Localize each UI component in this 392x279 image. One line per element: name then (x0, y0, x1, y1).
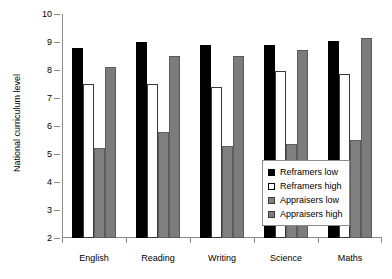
x-axis-tick (254, 238, 255, 243)
legend-swatch-icon (268, 211, 275, 218)
bar-group: Reading (126, 14, 190, 238)
x-axis-tick (190, 238, 191, 243)
y-axis-tick (54, 210, 60, 211)
x-axis-tick (381, 238, 382, 243)
y-axis-tick-label: 6 (28, 122, 52, 131)
x-axis-label-maths: Maths (338, 253, 363, 263)
y-axis-title: National curriculum level (12, 23, 22, 223)
legend-label: Reframers high (280, 182, 342, 191)
bar-appraisers-high-english (105, 67, 116, 238)
legend-label: Reframers low (280, 168, 338, 177)
y-axis-tick-label: 8 (28, 66, 52, 75)
y-axis-tick (54, 70, 60, 71)
bar-reframers-high-reading (147, 84, 158, 238)
y-axis-tick (54, 238, 60, 239)
y-axis-tick-label: 10 (28, 10, 52, 19)
legend-item-reframers-high[interactable]: Reframers high (268, 179, 343, 193)
legend-swatch-icon (268, 197, 275, 204)
bar-reframers-high-english (83, 84, 94, 238)
legend-item-appraisers-high[interactable]: Appraisers high (268, 207, 343, 221)
legend-label: Appraisers high (280, 210, 343, 219)
bar-appraisers-low-reading (158, 132, 169, 238)
x-axis-label-writing: Writing (208, 253, 236, 263)
bar-appraisers-low-maths (350, 140, 361, 238)
y-axis-tick (54, 14, 60, 15)
bar-appraisers-high-maths (361, 38, 372, 238)
bar-reframers-low-reading (136, 42, 147, 238)
bar-reframers-high-writing (211, 87, 222, 238)
bar-appraisers-high-writing (233, 56, 244, 238)
bar-group: English (62, 14, 126, 238)
bar-group: Writing (190, 14, 254, 238)
y-axis-tick (54, 126, 60, 127)
y-axis-tick (54, 42, 60, 43)
bar-appraisers-low-english (94, 148, 105, 238)
legend-label: Appraisers low (280, 196, 339, 205)
x-axis-label-reading: Reading (141, 253, 175, 263)
y-axis-tick-label: 4 (28, 178, 52, 187)
legend-swatch-icon (268, 183, 275, 190)
legend-item-reframers-low[interactable]: Reframers low (268, 165, 343, 179)
legend-swatch-icon (268, 169, 275, 176)
legend-item-appraisers-low[interactable]: Appraisers low (268, 193, 343, 207)
bar-appraisers-high-reading (169, 56, 180, 238)
bar-appraisers-low-writing (222, 146, 233, 238)
bar-chart: National curriculum level 2345678910 Eng… (0, 0, 392, 279)
y-axis-tick (54, 154, 60, 155)
y-axis-tick-label: 5 (28, 150, 52, 159)
x-axis-label-science: Science (270, 253, 302, 263)
chart-legend: Reframers lowReframers highAppraisers lo… (262, 160, 350, 226)
y-axis-tick-label: 2 (28, 234, 52, 243)
y-axis-tick (54, 98, 60, 99)
y-axis-tick (54, 182, 60, 183)
bar-reframers-low-writing (200, 45, 211, 238)
y-axis-tick-label: 3 (28, 206, 52, 215)
y-axis-tick-label: 9 (28, 38, 52, 47)
bar-reframers-low-english (72, 48, 83, 238)
x-axis-label-english: English (79, 253, 109, 263)
y-axis-tick-label: 7 (28, 94, 52, 103)
x-axis-tick (126, 238, 127, 243)
x-axis-tick (318, 238, 319, 243)
x-axis-tick (62, 238, 63, 243)
